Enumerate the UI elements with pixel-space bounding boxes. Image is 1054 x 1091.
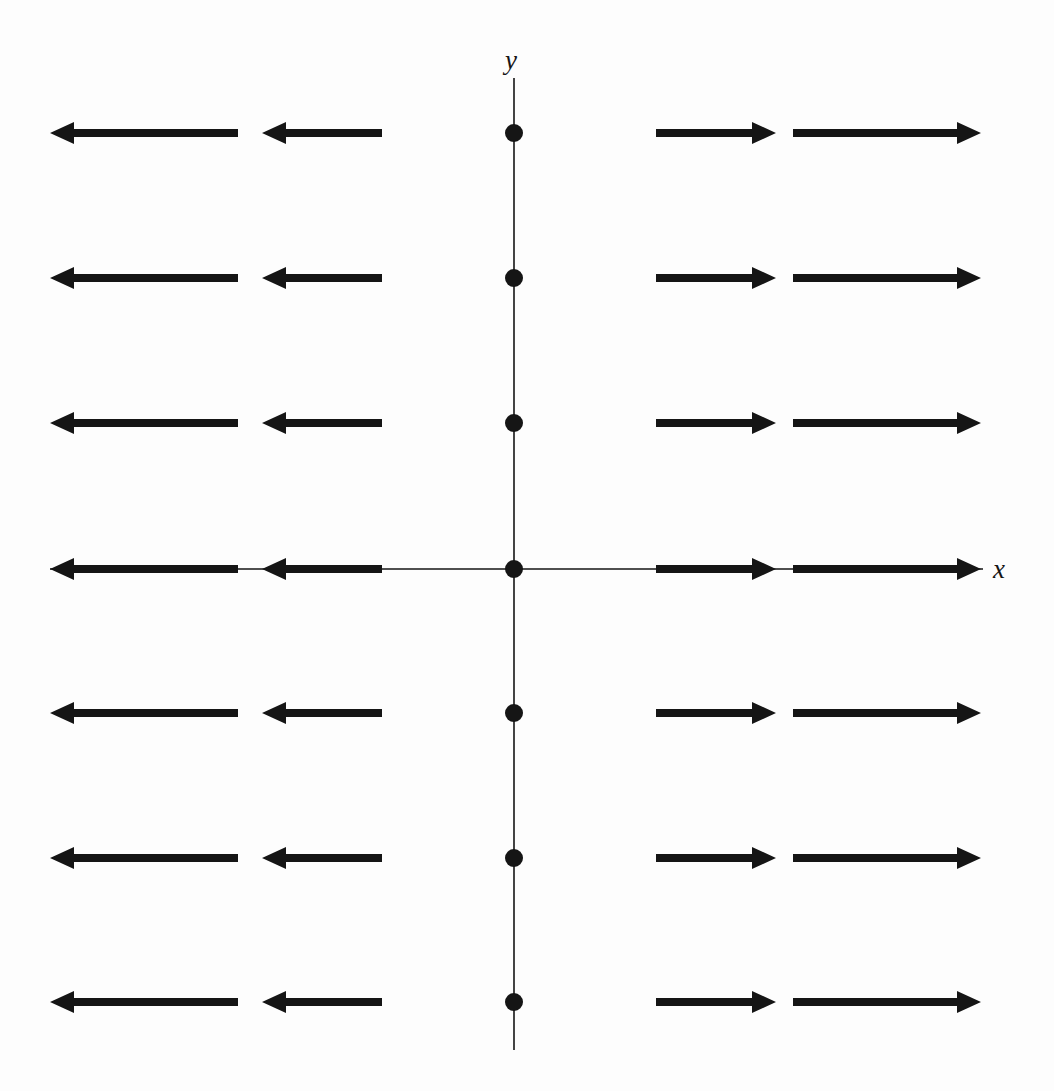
field-arrow-x-1-y3: [262, 122, 382, 144]
axis-dot-marker-y-1: [505, 704, 523, 722]
field-arrow-x2-y3: [793, 122, 981, 144]
field-arrow-x-1-y-3: [262, 991, 382, 1013]
field-arrow-x-2-y0: [50, 558, 238, 580]
axis-dot-marker-y-2: [505, 849, 523, 867]
vector-field-plot: [0, 0, 1054, 1091]
axis-dot-marker-y2: [505, 269, 523, 287]
field-arrow-x-2-y2: [50, 267, 238, 289]
field-arrow-x-2-y-1: [50, 702, 238, 724]
field-arrow-x1-y2: [656, 267, 776, 289]
field-arrow-x2-y0: [793, 558, 981, 580]
x-axis-label: x: [993, 556, 1005, 583]
field-arrow-x2-y2: [793, 267, 981, 289]
field-arrow-x-1-y2: [262, 267, 382, 289]
field-arrow-x-1-y1: [262, 412, 382, 434]
field-arrow-x1-y3: [656, 122, 776, 144]
axis-dot-marker-y0: [505, 560, 523, 578]
field-arrow-x-2-y-2: [50, 847, 238, 869]
axis-dot-marker-y3: [505, 124, 523, 142]
field-arrow-x-2-y1: [50, 412, 238, 434]
axis-dot-marker-y-3: [505, 993, 523, 1011]
field-arrow-x1-y0: [656, 558, 776, 580]
y-axis-label: y: [505, 47, 517, 74]
field-arrow-x-1-y0: [262, 558, 382, 580]
field-arrow-x1-y1: [656, 412, 776, 434]
vector-field-figure: x y: [0, 0, 1054, 1091]
field-arrow-x-1-y-2: [262, 847, 382, 869]
field-arrow-x2-y1: [793, 412, 981, 434]
field-arrow-x1-y-1: [656, 702, 776, 724]
field-arrow-x-2-y3: [50, 122, 238, 144]
field-arrow-x2-y-2: [793, 847, 981, 869]
field-arrow-x-2-y-3: [50, 991, 238, 1013]
field-arrow-x1-y-3: [656, 991, 776, 1013]
field-arrow-x2-y-3: [793, 991, 981, 1013]
field-arrow-x1-y-2: [656, 847, 776, 869]
axis-dot-marker-y1: [505, 414, 523, 432]
field-arrow-x2-y-1: [793, 702, 981, 724]
field-arrow-x-1-y-1: [262, 702, 382, 724]
